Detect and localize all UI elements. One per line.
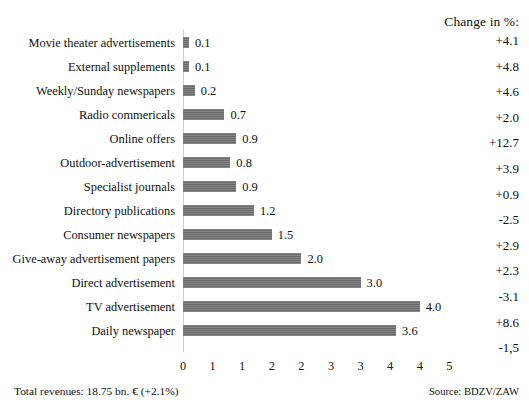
- bar-value-label: 3.0: [367, 271, 383, 295]
- bar-row: Outdoor-advertisement0.8: [0, 151, 529, 175]
- bar-row: Give-away advertisement papers2.0: [0, 247, 529, 271]
- bar-value-label: 0.9: [242, 175, 258, 199]
- bar-row: External supplements0.1: [0, 55, 529, 79]
- change-column-header: Change in %:: [444, 14, 519, 30]
- source-note: Source: BDZV/ZAW: [429, 386, 519, 397]
- category-label: Consumer newspapers: [0, 223, 175, 247]
- bar-value-label: 0.2: [201, 79, 217, 103]
- bar: [183, 205, 254, 216]
- plot-area: Movie theater advertisements0.1External …: [0, 30, 529, 352]
- bar-value-label: 0.1: [195, 55, 211, 79]
- bar-value-label: 2.0: [307, 247, 323, 271]
- category-label: Weekly/Sunday newspapers: [0, 79, 175, 103]
- bar-value-label: 1.2: [260, 199, 276, 223]
- x-axis-tick-label: 2: [260, 357, 284, 375]
- x-axis-tick-label: 0: [171, 357, 195, 375]
- x-axis-tick-label: 4: [408, 357, 432, 375]
- category-label: Movie theater advertisements: [0, 31, 175, 55]
- bar-chart: Change in %: Movie theater advertisement…: [0, 0, 529, 413]
- bar-value-label: 0.7: [230, 103, 246, 127]
- x-axis-tick-label: 1: [230, 357, 254, 375]
- bar-row: Daily newspaper3.6: [0, 319, 529, 343]
- total-revenues-note: Total revenues: 18.75 bn. € (+2.1%): [14, 385, 178, 397]
- category-label: Specialist journals: [0, 175, 175, 199]
- category-label: Outdoor-advertisement: [0, 151, 175, 175]
- bar-row: Weekly/Sunday newspapers0.2: [0, 79, 529, 103]
- bar: [183, 301, 420, 312]
- category-label: Daily newspaper: [0, 319, 175, 343]
- bar-value-label: 0.8: [236, 151, 252, 175]
- bar-value-label: 1.5: [278, 223, 294, 247]
- bar: [183, 253, 301, 264]
- category-label: Online offers: [0, 127, 175, 151]
- bar-value-label: 4.0: [426, 295, 442, 319]
- category-label: Directory publications: [0, 199, 175, 223]
- x-axis-tick-label: 4: [378, 357, 402, 375]
- x-axis-tick-label: 1: [201, 357, 225, 375]
- bar-row: TV advertisement4.0: [0, 295, 529, 319]
- category-label: External supplements: [0, 55, 175, 79]
- bar-value-label: 0.9: [242, 127, 258, 151]
- bar: [183, 109, 224, 120]
- category-label: TV advertisement: [0, 295, 175, 319]
- bar: [183, 85, 195, 96]
- bar-value-label: 3.6: [402, 319, 418, 343]
- category-label: Direct advertisement: [0, 271, 175, 295]
- bar: [183, 157, 230, 168]
- bar: [183, 229, 272, 240]
- x-axis-ticks: 0112233445: [0, 357, 529, 375]
- bar: [183, 61, 189, 72]
- bar: [183, 133, 236, 144]
- bar: [183, 37, 189, 48]
- bar-row: Directory publications1.2: [0, 199, 529, 223]
- bar-row: Radio commericals0.7: [0, 103, 529, 127]
- x-axis-tick-label: 5: [437, 357, 461, 375]
- x-axis-tick-label: 2: [289, 357, 313, 375]
- bar-row: Consumer newspapers1.5: [0, 223, 529, 247]
- bar: [183, 277, 361, 288]
- x-axis-tick-label: 3: [319, 357, 343, 375]
- bar-value-label: 0.1: [195, 31, 211, 55]
- category-label: Give-away advertisement papers: [0, 247, 175, 271]
- x-axis-tick-label: 3: [349, 357, 373, 375]
- category-label: Radio commericals: [0, 103, 175, 127]
- bar: [183, 181, 236, 192]
- bar: [183, 325, 396, 336]
- bar-row: Direct advertisement3.0: [0, 271, 529, 295]
- bar-row: Movie theater advertisements0.1: [0, 31, 529, 55]
- bar-row: Online offers0.9: [0, 127, 529, 151]
- bar-row: Specialist journals0.9: [0, 175, 529, 199]
